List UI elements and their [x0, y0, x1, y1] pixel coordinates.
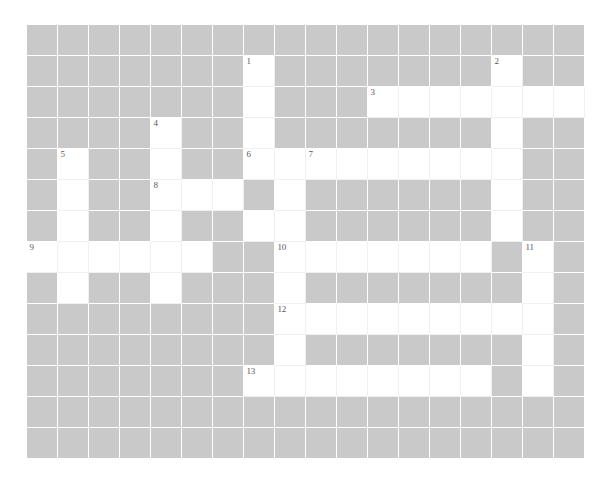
- crossword-cell-block: [213, 149, 244, 180]
- crossword-cell-open[interactable]: [492, 304, 523, 335]
- crossword-cell-open[interactable]: [89, 242, 120, 273]
- crossword-cell-open[interactable]: [430, 87, 461, 118]
- crossword-cell-open[interactable]: [151, 242, 182, 273]
- crossword-cell-open[interactable]: [461, 87, 492, 118]
- crossword-cell-block: [368, 335, 399, 366]
- crossword-cell-open[interactable]: 10: [275, 242, 306, 273]
- crossword-cell-open[interactable]: [461, 149, 492, 180]
- crossword-cell-open[interactable]: [244, 211, 275, 242]
- crossword-cell-block: [244, 428, 275, 459]
- crossword-cell-block: [120, 149, 151, 180]
- crossword-cell-open[interactable]: [368, 149, 399, 180]
- crossword-cell-block: [213, 397, 244, 428]
- crossword-page: 12345678910111213: [0, 0, 615, 495]
- crossword-cell-block: [244, 242, 275, 273]
- crossword-cell-open[interactable]: [430, 366, 461, 397]
- crossword-cell-open[interactable]: [430, 149, 461, 180]
- crossword-cell-open[interactable]: 5: [58, 149, 89, 180]
- crossword-cell-block: [120, 335, 151, 366]
- crossword-cell-open[interactable]: [399, 304, 430, 335]
- crossword-cell-open[interactable]: [492, 118, 523, 149]
- crossword-cell-block: [89, 180, 120, 211]
- clue-number-11: 11: [526, 242, 534, 253]
- crossword-cell-open[interactable]: [461, 304, 492, 335]
- crossword-cell-open[interactable]: 8: [151, 180, 182, 211]
- crossword-cell-open[interactable]: [337, 242, 368, 273]
- crossword-cell-open[interactable]: [523, 304, 554, 335]
- crossword-cell-block: [120, 211, 151, 242]
- crossword-cell-open[interactable]: [244, 87, 275, 118]
- crossword-cell-open[interactable]: [151, 273, 182, 304]
- crossword-cell-open[interactable]: 4: [151, 118, 182, 149]
- crossword-cell-open[interactable]: [492, 180, 523, 211]
- crossword-cell-block: [244, 335, 275, 366]
- crossword-cell-open[interactable]: [151, 149, 182, 180]
- crossword-cell-open[interactable]: 2: [492, 56, 523, 87]
- crossword-cell-block: [523, 428, 554, 459]
- crossword-cell-open[interactable]: [58, 211, 89, 242]
- crossword-cell-open[interactable]: [275, 180, 306, 211]
- crossword-cell-block: [89, 397, 120, 428]
- crossword-cell-open[interactable]: [58, 242, 89, 273]
- crossword-cell-open[interactable]: [337, 304, 368, 335]
- crossword-cell-block: [275, 87, 306, 118]
- crossword-cell-open[interactable]: [337, 149, 368, 180]
- crossword-cell-block: [120, 56, 151, 87]
- crossword-cell-open[interactable]: [306, 304, 337, 335]
- crossword-cell-open[interactable]: [399, 149, 430, 180]
- crossword-cell-open[interactable]: [244, 118, 275, 149]
- crossword-cell-open[interactable]: [275, 366, 306, 397]
- crossword-cell-open[interactable]: [523, 87, 554, 118]
- crossword-cell-open[interactable]: [368, 366, 399, 397]
- crossword-cell-open[interactable]: [275, 211, 306, 242]
- crossword-cell-open[interactable]: [58, 180, 89, 211]
- crossword-cell-open[interactable]: 3: [368, 87, 399, 118]
- crossword-cell-open[interactable]: 1: [244, 56, 275, 87]
- crossword-cell-open[interactable]: [430, 242, 461, 273]
- crossword-cell-open[interactable]: [368, 242, 399, 273]
- crossword-cell-open[interactable]: 7: [306, 149, 337, 180]
- crossword-cell-open[interactable]: 9: [27, 242, 58, 273]
- crossword-cell-block: [337, 211, 368, 242]
- crossword-cell-open[interactable]: [492, 211, 523, 242]
- crossword-cell-block: [399, 335, 430, 366]
- crossword-grid[interactable]: 12345678910111213: [27, 25, 585, 459]
- crossword-cell-open[interactable]: [523, 366, 554, 397]
- crossword-cell-open[interactable]: [523, 273, 554, 304]
- crossword-cell-open[interactable]: [399, 366, 430, 397]
- crossword-cell-open[interactable]: 13: [244, 366, 275, 397]
- crossword-cell-block: [430, 273, 461, 304]
- crossword-cell-open[interactable]: 6: [244, 149, 275, 180]
- crossword-cell-open[interactable]: [523, 335, 554, 366]
- crossword-cell-block: [89, 366, 120, 397]
- crossword-cell-open[interactable]: 12: [275, 304, 306, 335]
- crossword-cell-open[interactable]: [492, 149, 523, 180]
- crossword-cell-block: [399, 25, 430, 56]
- crossword-cell-open[interactable]: [399, 87, 430, 118]
- crossword-cell-block: [399, 273, 430, 304]
- crossword-cell-open[interactable]: [461, 242, 492, 273]
- crossword-cell-open[interactable]: [368, 304, 399, 335]
- crossword-cell-block: [554, 25, 585, 56]
- crossword-cell-block: [120, 25, 151, 56]
- crossword-cell-open[interactable]: [306, 242, 337, 273]
- crossword-cell-block: [492, 25, 523, 56]
- crossword-cell-open[interactable]: [306, 366, 337, 397]
- crossword-cell-open[interactable]: [337, 366, 368, 397]
- crossword-cell-open[interactable]: [151, 211, 182, 242]
- crossword-cell-open[interactable]: [58, 273, 89, 304]
- crossword-cell-open[interactable]: [492, 87, 523, 118]
- crossword-cell-open[interactable]: [275, 273, 306, 304]
- crossword-cell-open[interactable]: [461, 366, 492, 397]
- crossword-cell-open[interactable]: [275, 149, 306, 180]
- crossword-cell-open[interactable]: [213, 180, 244, 211]
- crossword-cell-open[interactable]: [399, 242, 430, 273]
- crossword-cell-open[interactable]: [120, 242, 151, 273]
- crossword-cell-open[interactable]: [275, 335, 306, 366]
- crossword-cell-open[interactable]: 11: [523, 242, 554, 273]
- crossword-cell-open[interactable]: [430, 304, 461, 335]
- crossword-cell-block: [244, 25, 275, 56]
- crossword-cell-open[interactable]: [554, 87, 585, 118]
- crossword-cell-open[interactable]: [182, 180, 213, 211]
- crossword-cell-open[interactable]: [182, 242, 213, 273]
